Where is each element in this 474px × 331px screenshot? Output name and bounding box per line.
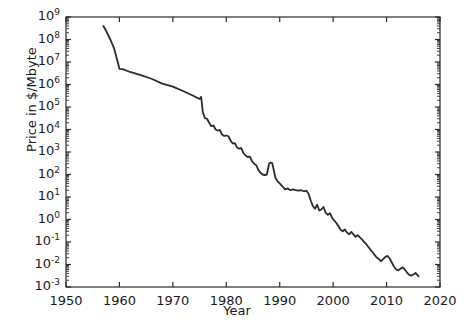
y-tick-label: 101 bbox=[10, 188, 60, 203]
chart-plot-area bbox=[0, 0, 474, 331]
y-tick-label: 100 bbox=[10, 211, 60, 226]
x-axis-label: Year bbox=[0, 303, 474, 318]
data-series-line bbox=[103, 26, 418, 276]
axes-frame bbox=[66, 17, 440, 287]
chart-figure: 10-310-210-11001011021031041051061071081… bbox=[0, 0, 474, 331]
y-axis-label-wrapper: Price in $/Mbyte bbox=[21, 15, 40, 185]
y-tick-label: 10-2 bbox=[10, 256, 60, 271]
y-major-ticks bbox=[66, 17, 440, 287]
y-tick-label: 10-1 bbox=[10, 233, 60, 248]
y-tick-label: 10-3 bbox=[10, 278, 60, 293]
y-axis-label: Price in $/Mbyte bbox=[24, 47, 39, 152]
x-major-ticks bbox=[66, 17, 440, 287]
y-minor-ticks bbox=[66, 18, 440, 280]
